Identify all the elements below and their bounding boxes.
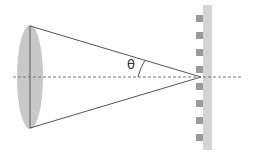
optics-diagram	[0, 0, 254, 156]
cone-upper-ray	[30, 26, 201, 77]
theta-label: θ	[127, 58, 135, 71]
angle-arc	[138, 60, 145, 77]
cone-lower-ray	[30, 77, 201, 128]
